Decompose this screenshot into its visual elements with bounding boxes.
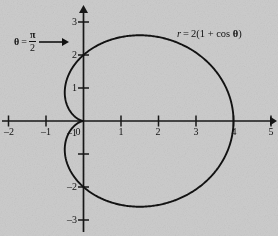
equation-rhs-suffix: ) (238, 28, 242, 39)
x-tick-label-3: 3 (194, 127, 199, 137)
polar-cardioid-figure: –2 –1 0 1 2 3 4 5 3 2 1 –1 –2 –3 θ = π 2… (0, 0, 278, 236)
y-tick-label-1: 1 (72, 83, 77, 93)
y-tick-label--3: –3 (67, 215, 77, 225)
y-tick-label-3: 3 (72, 17, 77, 27)
x-tick-label-4: 4 (232, 127, 237, 137)
pi-over-2-fraction: π 2 (29, 30, 36, 53)
equation-function: cos (216, 28, 230, 39)
x-tick-label-2: 2 (156, 127, 161, 137)
y-tick-label-2: 2 (72, 50, 77, 60)
fraction-denominator: 2 (29, 41, 36, 53)
y-axis (78, 5, 89, 232)
theta-equals-pi-over-2-annotation: θ = π 2 (14, 30, 69, 53)
curve-equation-label: r=2(1 + cos θ) (177, 28, 242, 39)
equation-rhs-prefix: 2(1 + (191, 28, 216, 39)
x-tick-label--2: –2 (4, 127, 14, 137)
x-axis (2, 116, 277, 127)
x-tick-label-5: 5 (269, 127, 274, 137)
equals-sign: = (20, 36, 29, 47)
x-tick-label-1: 1 (119, 127, 124, 137)
y-tick-label--1: –1 (67, 128, 77, 138)
equation-equals: = (181, 28, 191, 39)
y-tick-label--2: –2 (67, 182, 77, 192)
fraction-numerator: π (29, 30, 36, 41)
arrow-right-icon (39, 37, 69, 47)
y-axis-arrowhead-icon (79, 5, 88, 13)
x-tick-label--1: –1 (41, 127, 51, 137)
